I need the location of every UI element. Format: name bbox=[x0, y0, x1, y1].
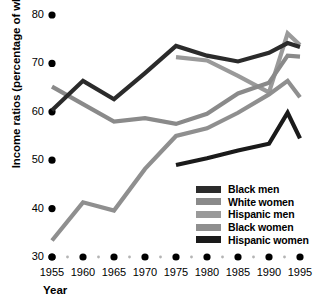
x-axis-label: Year bbox=[43, 284, 67, 296]
x-tick-dot bbox=[234, 253, 241, 260]
x-minor-tick-dot bbox=[159, 256, 162, 259]
y-tick-dot bbox=[48, 253, 55, 260]
x-tick-dot bbox=[203, 253, 210, 260]
legend-swatch bbox=[196, 186, 221, 193]
legend-swatch bbox=[196, 198, 221, 205]
legend-item: Black men bbox=[196, 183, 322, 196]
chart-legend: Black menWhite womenHispanic menBlack wo… bbox=[196, 183, 322, 246]
x-tick-label: 1965 bbox=[97, 266, 131, 278]
x-tick-dot bbox=[110, 253, 117, 260]
legend-item-label: Hispanic women bbox=[228, 234, 309, 246]
x-tick-dot bbox=[296, 253, 303, 260]
legend-swatch bbox=[196, 211, 221, 218]
x-minor-tick-dot bbox=[221, 256, 224, 259]
series-line bbox=[176, 113, 300, 165]
y-tick-dot bbox=[48, 157, 55, 164]
y-axis-label: Income ratios (percentage of white men) bbox=[8, 0, 24, 168]
legend-item-label: Hispanic men bbox=[228, 208, 294, 220]
y-tick-label: 60 bbox=[22, 105, 44, 117]
x-minor-tick-dot bbox=[252, 256, 255, 259]
legend-item: Black women bbox=[196, 221, 322, 234]
y-tick-label: 50 bbox=[22, 153, 44, 165]
x-minor-tick-dot bbox=[66, 256, 69, 259]
x-minor-tick-dot bbox=[283, 256, 286, 259]
y-tick-dot bbox=[48, 205, 55, 212]
legend-item-label: White women bbox=[228, 196, 294, 208]
legend-swatch bbox=[196, 236, 221, 243]
x-tick-dot bbox=[141, 253, 148, 260]
plot-area bbox=[0, 0, 326, 306]
x-tick-label: 1985 bbox=[221, 266, 255, 278]
line-chart: Income ratios (percentage of white men) … bbox=[0, 0, 326, 306]
x-tick-label: 1990 bbox=[252, 266, 286, 278]
x-tick-label: 1955 bbox=[35, 266, 69, 278]
x-tick-dot bbox=[172, 253, 179, 260]
legend-item-label: Black men bbox=[228, 183, 279, 195]
y-axis-label-text: Income ratios (percentage of white men) bbox=[10, 0, 22, 168]
x-tick-label: 1960 bbox=[66, 266, 100, 278]
legend-item: White women bbox=[196, 196, 322, 209]
x-minor-tick-dot bbox=[190, 256, 193, 259]
x-tick-dot bbox=[265, 253, 272, 260]
y-tick-label: 40 bbox=[22, 202, 44, 214]
legend-item: Hispanic men bbox=[196, 208, 322, 221]
y-tick-label: 70 bbox=[22, 56, 44, 68]
x-tick-label: 1995 bbox=[283, 266, 317, 278]
x-minor-tick-dot bbox=[97, 256, 100, 259]
y-tick-label: 30 bbox=[22, 250, 44, 262]
x-tick-label: 1970 bbox=[128, 266, 162, 278]
legend-swatch bbox=[196, 224, 221, 231]
x-tick-dot bbox=[79, 253, 86, 260]
y-tick-label: 80 bbox=[22, 8, 44, 20]
x-minor-tick-dot bbox=[128, 256, 131, 259]
legend-item-label: Black women bbox=[228, 221, 293, 233]
x-tick-label: 1975 bbox=[159, 266, 193, 278]
legend-item: Hispanic women bbox=[196, 233, 322, 246]
y-tick-dot bbox=[48, 60, 55, 67]
y-tick-dot bbox=[48, 11, 55, 18]
x-tick-label: 1980 bbox=[190, 266, 224, 278]
